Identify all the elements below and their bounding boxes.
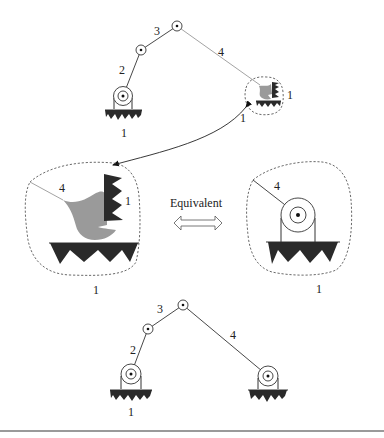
joint-a-top <box>136 45 146 55</box>
bottom-link2-label: 2 <box>130 343 136 357</box>
four-bar-equivalence-diagram: 2 3 4 1 1 1 4 1 1 Equivalent <box>0 0 384 438</box>
zoom-right-frame-label-below: 1 <box>316 282 322 296</box>
bottom-mechanism: 2 3 4 1 <box>110 300 288 419</box>
zoom-left-view: 4 1 1 <box>25 162 140 297</box>
top-link2-label: 2 <box>119 63 125 77</box>
top-frame-label-side: 1 <box>287 88 293 102</box>
top-link4-label: 4 <box>218 45 224 59</box>
bottom-ground-label: 1 <box>128 405 134 419</box>
bottom-link4-label: 4 <box>230 328 236 342</box>
joint-b-top <box>172 21 182 31</box>
top-link3-label: 3 <box>154 24 160 38</box>
equivalence-indicator: Equivalent <box>170 196 223 230</box>
frame-vertical <box>104 174 123 221</box>
zoom-left-frame-label-side: 1 <box>125 194 131 208</box>
ground-pivot-left <box>105 87 142 121</box>
bottom-joint-a <box>143 324 153 334</box>
equivalent-label: Equivalent <box>170 196 223 210</box>
top-ground-label-left: 1 <box>121 126 127 140</box>
bottom-rule <box>0 430 384 432</box>
zoom-right-view: 4 1 <box>247 162 352 296</box>
zoom-right-link4-label: 4 <box>274 179 280 193</box>
frame-ground-right <box>268 242 338 264</box>
zoom-source-region <box>245 77 283 115</box>
zoom-left-link4-label: 4 <box>59 181 65 195</box>
frame-horizontal <box>50 243 138 264</box>
bottom-link3-label: 3 <box>157 302 163 316</box>
top-mechanism: 2 3 4 1 1 1 <box>105 21 293 140</box>
bottom-joint-b <box>178 300 188 310</box>
bottom-link-3 <box>148 305 183 329</box>
bottom-pivot-right <box>248 366 288 402</box>
double-arrow-icon <box>174 216 222 230</box>
zoom-left-frame-label-below: 1 <box>93 283 99 297</box>
bottom-pivot-left <box>110 364 152 401</box>
bottom-link-4 <box>183 305 268 376</box>
